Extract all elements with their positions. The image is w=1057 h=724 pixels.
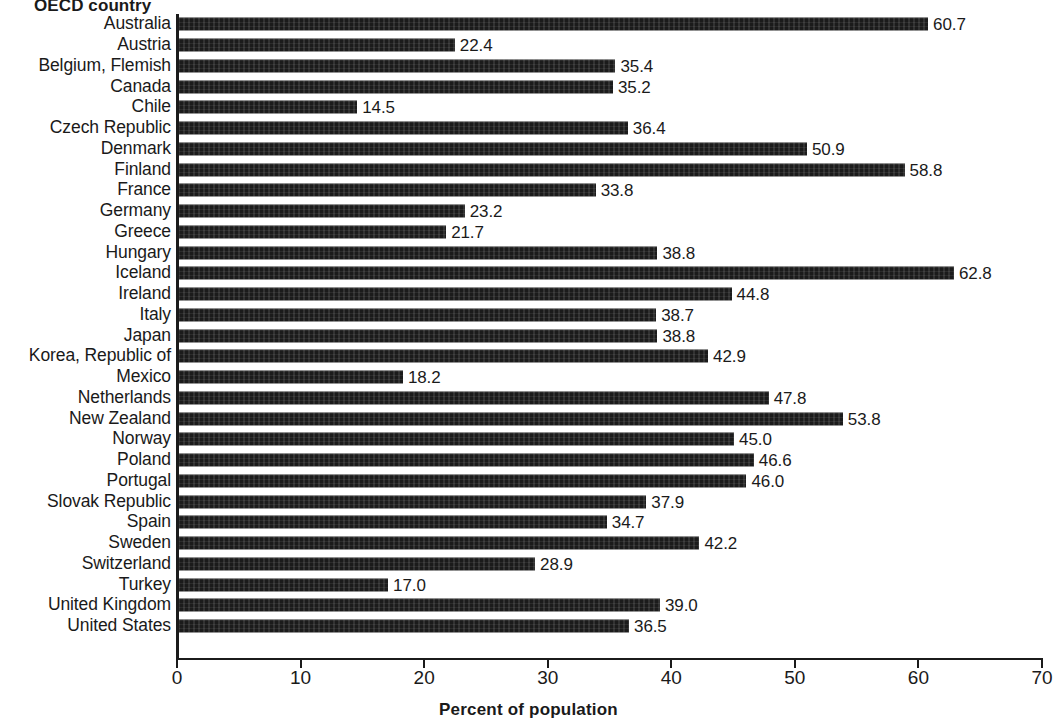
bar-row: Slovak Republic37.9: [0, 491, 1057, 512]
bar-row: Sweden42.2: [0, 533, 1057, 554]
category-label: Hungary: [106, 244, 171, 262]
bar: [178, 371, 403, 384]
category-label: Korea, Republic of: [29, 348, 171, 366]
bar-row: Belgium, Flemish35.4: [0, 56, 1057, 77]
bar-value-label: 28.9: [540, 555, 573, 572]
bar-value-label: 58.8: [910, 161, 943, 178]
bar-row: United Kingdom39.0: [0, 595, 1057, 616]
bar: [178, 537, 699, 550]
bar: [178, 163, 905, 176]
bar: [178, 391, 769, 404]
bar-with-value: 39.0: [178, 599, 698, 612]
bar-with-value: 42.9: [178, 350, 746, 363]
bar-value-label: 39.0: [665, 597, 698, 614]
bar-value-label: 53.8: [848, 410, 881, 427]
bar-with-value: 38.8: [178, 329, 695, 342]
bar-with-value: 42.2: [178, 537, 737, 550]
bar-with-value: 23.2: [178, 205, 502, 218]
bar-row: Spain34.7: [0, 512, 1057, 533]
x-tick-label: 30: [537, 668, 558, 687]
bar-with-value: 37.9: [178, 495, 684, 508]
category-label: Australia: [104, 16, 171, 34]
bar-with-value: 60.7: [178, 18, 966, 31]
bar-chart: OECD country Australia60.7Austria22.4Bel…: [0, 0, 1057, 724]
category-label: Ireland: [118, 285, 171, 303]
bar-row: Netherlands47.8: [0, 388, 1057, 409]
category-label: New Zealand: [69, 410, 171, 428]
bar: [178, 101, 357, 114]
bar-value-label: 35.4: [620, 57, 653, 74]
x-tick-label: 50: [784, 668, 805, 687]
bar-row: Czech Republic36.4: [0, 118, 1057, 139]
bar-with-value: 46.0: [178, 474, 784, 487]
bar-with-value: 45.0: [178, 433, 772, 446]
bar: [178, 80, 613, 93]
x-tick-label: 20: [414, 668, 435, 687]
bar-value-label: 38.8: [662, 244, 695, 261]
x-tick-label: 70: [1031, 668, 1052, 687]
bar-with-value: 33.8: [178, 184, 633, 197]
bar-value-label: 38.8: [662, 327, 695, 344]
x-tick-label: 10: [290, 668, 311, 687]
bar-row: Canada35.2: [0, 76, 1057, 97]
bar-with-value: 38.8: [178, 246, 695, 259]
bar-value-label: 45.0: [739, 431, 772, 448]
bar-with-value: 35.4: [178, 59, 653, 72]
bar: [178, 329, 657, 342]
category-label: Czech Republic: [50, 119, 171, 137]
bar: [178, 225, 446, 238]
bar-row: Mexico18.2: [0, 367, 1057, 388]
bar-value-label: 33.8: [601, 182, 634, 199]
category-label: Japan: [124, 327, 171, 345]
category-label: United Kingdom: [48, 597, 171, 615]
bar-with-value: 53.8: [178, 412, 881, 425]
x-axis-line: [176, 658, 1043, 660]
category-label: Netherlands: [78, 389, 171, 407]
bar-value-label: 44.8: [737, 286, 770, 303]
category-label: Canada: [110, 78, 171, 96]
bar-value-label: 42.2: [704, 535, 737, 552]
bar: [178, 578, 388, 591]
bar-with-value: 58.8: [178, 163, 942, 176]
bar-row: New Zealand53.8: [0, 408, 1057, 429]
bar-with-value: 46.6: [178, 454, 792, 467]
bar: [178, 288, 732, 301]
bar-value-label: 50.9: [812, 140, 845, 157]
bar: [178, 620, 629, 633]
bar-row: United States36.5: [0, 616, 1057, 637]
category-label: Spain: [127, 514, 171, 532]
bar-with-value: 36.5: [178, 620, 667, 633]
bar-row: Poland46.6: [0, 450, 1057, 471]
category-label: Iceland: [115, 265, 171, 283]
bar: [178, 516, 607, 529]
bar-with-value: 21.7: [178, 225, 484, 238]
bar-value-label: 35.2: [618, 78, 651, 95]
bar: [178, 59, 615, 72]
bar: [178, 433, 734, 446]
category-label: Chile: [132, 99, 171, 117]
bar-value-label: 34.7: [612, 514, 645, 531]
bar: [178, 599, 660, 612]
bar: [178, 454, 754, 467]
bar-with-value: 47.8: [178, 391, 806, 404]
bar-row: Austria22.4: [0, 35, 1057, 56]
category-label: Slovak Republic: [47, 493, 171, 511]
bar: [178, 142, 807, 155]
bar: [178, 267, 954, 280]
y-axis-line: [176, 14, 179, 659]
bar: [178, 122, 628, 135]
bar-row: Japan38.8: [0, 325, 1057, 346]
bar: [178, 557, 535, 570]
bar-row: Portugal46.0: [0, 471, 1057, 492]
bar-with-value: 44.8: [178, 288, 769, 301]
bar-row: Denmark50.9: [0, 139, 1057, 160]
x-tick-label: 0: [172, 668, 183, 687]
bar-with-value: 50.9: [178, 142, 845, 155]
x-axis-title: Percent of population: [0, 700, 1057, 720]
bar: [178, 474, 746, 487]
bar-row: Germany23.2: [0, 201, 1057, 222]
category-label: Turkey: [119, 576, 171, 594]
bar-value-label: 46.6: [759, 452, 792, 469]
bar-row: Norway45.0: [0, 429, 1057, 450]
bar-value-label: 18.2: [408, 369, 441, 386]
